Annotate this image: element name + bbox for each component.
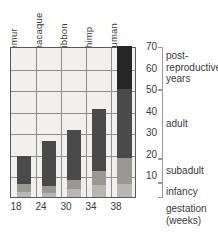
bar-segment-post-reproductive[interactable] [117,46,132,89]
bar-segment-infancy[interactable] [117,184,132,197]
bar-segment-adult[interactable] [67,130,81,180]
x-tick-30: 30 [53,201,79,212]
bracket-subadult [158,159,163,183]
x-tick-34: 34 [78,201,104,212]
bracket-post-reproductive [158,47,163,90]
stage-label-subadult: subadult [166,165,204,177]
bar-segment-infancy[interactable] [92,185,106,197]
stage-label-infancy: infancy [166,186,198,198]
bar-human[interactable] [117,46,132,197]
column-separator-2 [61,48,62,197]
bar-segment-adult[interactable] [92,109,106,172]
bar-segment-adult[interactable] [42,141,56,186]
bracket-infancy [158,183,163,198]
y-tick-30: 30 [137,128,157,138]
bar-lemur[interactable] [17,156,31,197]
y-tick-50: 50 [137,85,157,95]
bar-segment-infancy[interactable] [67,189,81,197]
stage-post-line-2: reproductive [166,62,218,73]
bar-macaque[interactable] [42,141,56,197]
column-separator-1 [36,48,37,197]
bar-segment-infancy[interactable] [42,193,56,197]
stage-label-post-reproductive: post- reproductive years [166,50,218,85]
bar-segment-adult[interactable] [117,89,132,158]
bar-segment-infancy[interactable] [17,192,31,197]
column-separator-4 [111,48,112,197]
y-tick-60: 60 [137,64,157,74]
x-tick-38: 38 [103,201,129,212]
bar-gibbon[interactable] [67,130,81,197]
x-axis-caption: gestation (weeks) [166,203,207,226]
stage-label-adult: adult [166,118,188,130]
bar-segment-subadult[interactable] [42,186,56,192]
bar-segment-subadult[interactable] [67,180,81,190]
y-tick-70: 70 [137,42,157,52]
bar-segment-subadult[interactable] [92,171,106,185]
bar-chimp[interactable] [92,109,106,197]
bar-segment-subadult[interactable] [117,158,132,184]
y-tick-40: 40 [137,107,157,117]
bar-segment-subadult[interactable] [17,184,31,192]
bracket-adult [158,90,163,159]
plot-area [10,47,136,198]
chart-figure: lemur macaque gibbon chimp human 70 60 5… [0,0,218,234]
x-tick-24: 24 [28,201,54,212]
column-separator-3 [86,48,87,197]
x-caption-line-2: (weeks) [166,215,201,226]
stage-post-line-1: post- [166,50,188,61]
bar-segment-adult[interactable] [17,156,31,184]
stage-post-line-3: years [166,73,190,84]
y-axis: 70 60 50 40 30 20 10 [137,40,157,206]
x-tick-18: 18 [3,201,29,212]
y-tick-10: 10 [137,171,157,181]
y-tick-20: 20 [137,150,157,160]
x-caption-line-1: gestation [166,203,207,214]
